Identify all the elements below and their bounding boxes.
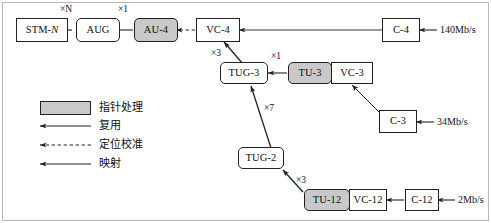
multiplier-tug3-from-vc4: ×3 bbox=[211, 49, 221, 59]
node-vc-4-label: VC-4 bbox=[206, 25, 230, 36]
node-tug-2-label: TUG-2 bbox=[246, 153, 277, 164]
legend-label-multiplex: 复用 bbox=[99, 120, 121, 131]
rate-label-34: 34Mb/s bbox=[437, 117, 468, 127]
node-c-4-label: C-4 bbox=[393, 25, 409, 36]
node-vc-12-label: VC-12 bbox=[353, 195, 382, 206]
legend-label-align: 定位校准 bbox=[99, 139, 143, 150]
legend-label-map: 映射 bbox=[99, 158, 121, 169]
node-tu-12[interactable]: TU-12 bbox=[304, 189, 350, 211]
node-au-4-label: AU-4 bbox=[144, 25, 168, 36]
rate-label-2: 2Mb/s bbox=[458, 195, 484, 205]
node-aug[interactable]: AUG bbox=[76, 18, 120, 42]
legend-label-pointer: 指针处理 bbox=[99, 102, 143, 113]
node-tu-12-label: TU-12 bbox=[313, 195, 342, 206]
node-vc-3[interactable]: VC-3 bbox=[331, 62, 373, 84]
multiplier-tug3-from-tu3: ×1 bbox=[271, 52, 281, 62]
multiplier-tug3-from-tug2: ×7 bbox=[264, 104, 274, 114]
node-tug-2[interactable]: TUG-2 bbox=[238, 147, 284, 169]
node-tug-3-label: TUG-3 bbox=[229, 68, 260, 79]
node-c-3-label: C-3 bbox=[390, 116, 406, 127]
arrow-c3-to-vc3 bbox=[352, 85, 380, 113]
node-c-3[interactable]: C-3 bbox=[379, 110, 417, 133]
node-vc-12[interactable]: VC-12 bbox=[349, 189, 387, 211]
node-stm-n-label: STM-N bbox=[26, 25, 59, 36]
multiplier-stm-from-aug: ×N bbox=[60, 5, 72, 15]
multiplier-tug2-from-tu12: ×3 bbox=[296, 176, 306, 186]
node-aug-label: AUG bbox=[86, 25, 109, 36]
node-vc-4[interactable]: VC-4 bbox=[196, 18, 240, 42]
arrow-tug3-to-vc4 bbox=[224, 42, 243, 64]
node-tu-3-label: TU-3 bbox=[298, 68, 321, 79]
node-c-12[interactable]: C-12 bbox=[405, 189, 439, 211]
node-c-4[interactable]: C-4 bbox=[382, 18, 420, 42]
diagram-canvas: STM-N AUG AU-4 VC-4 C-4 TUG-3 TU-3 VC-3 … bbox=[0, 0, 491, 223]
arrow-tug2-to-tug3 bbox=[251, 86, 271, 148]
node-tug-3[interactable]: TUG-3 bbox=[220, 62, 268, 84]
node-tu-3[interactable]: TU-3 bbox=[288, 62, 332, 84]
node-au-4[interactable]: AU-4 bbox=[134, 18, 178, 42]
node-c-12-label: C-12 bbox=[411, 195, 432, 206]
node-vc-3-label: VC-3 bbox=[340, 68, 364, 79]
legend-swatch-pointer bbox=[40, 101, 91, 115]
multiplier-aug-from-au4: ×1 bbox=[118, 5, 128, 15]
rate-label-140: 140Mb/s bbox=[440, 25, 476, 35]
node-stm-n[interactable]: STM-N bbox=[16, 18, 68, 42]
